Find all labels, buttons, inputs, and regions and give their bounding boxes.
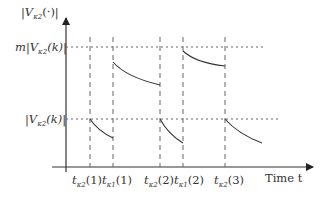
y-axis-label: |Vκ2(·)| — [21, 5, 59, 21]
level-high-label: m|Vκ2(k)| — [15, 40, 67, 56]
jump-segments — [113, 85, 160, 138]
tick-label-3: tκ2(2) — [144, 173, 174, 189]
tick-label-5: tκ2(3) — [214, 173, 244, 189]
tick-label-1: tκ2(1) — [72, 173, 102, 189]
curve-2 — [113, 62, 160, 85]
curve-4 — [183, 51, 225, 66]
x-axis-title: Time t — [265, 171, 303, 185]
decay-curves — [90, 51, 262, 143]
curve-5 — [225, 119, 262, 143]
lyapunov-switching-diagram: |Vκ2(·)| m|Vκ2(k)| |Vκ2(k)| tκ2(1) tκ1(1… — [0, 0, 328, 198]
switching-time-lines — [90, 37, 225, 167]
x-tick-labels: tκ2(1) tκ1(1) tκ2(2) tκ1(2) tκ2(3) — [72, 173, 244, 189]
curve-3 — [160, 119, 183, 143]
tick-label-4: tκ1(2) — [174, 173, 204, 189]
tick-label-2: tκ1(1) — [102, 173, 132, 189]
level-low-label: |Vκ2(k)| — [25, 112, 66, 128]
curve-1 — [90, 119, 113, 138]
